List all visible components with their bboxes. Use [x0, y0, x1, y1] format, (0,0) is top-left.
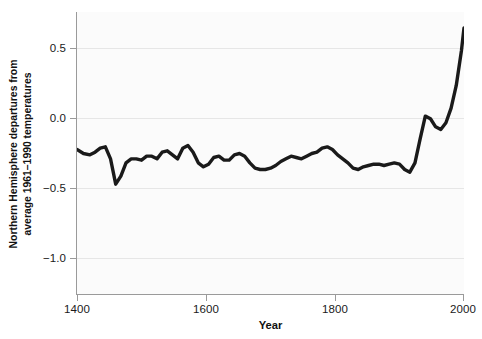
y-axis-title: Northern Hemisphere departures from aver… — [0, 12, 40, 295]
y-axis-line — [76, 12, 77, 295]
x-axis-line — [77, 294, 464, 295]
y-axis-title-line1: Northern Hemisphere departures from — [7, 59, 21, 248]
x-tick-1600 — [206, 295, 207, 301]
x-tick-label-1600: 1600 — [176, 303, 236, 315]
x-tick-2000 — [463, 295, 464, 301]
x-axis-title: Year — [77, 319, 464, 331]
x-tick-label-1800: 1800 — [305, 303, 365, 315]
y-tick-0.5 — [70, 48, 76, 49]
x-tick-1800 — [335, 295, 336, 301]
x-tick-label-1400: 1400 — [47, 303, 107, 315]
temperature-series-line — [77, 12, 464, 295]
x-tick-1400 — [77, 295, 78, 301]
y-axis-title-line2: average 1961–1990 temperatures — [20, 59, 34, 248]
x-tick-label-2000: 2000 — [433, 303, 482, 315]
plot-area — [77, 12, 464, 295]
y-tick--0.5 — [70, 188, 76, 189]
y-tick-0.0 — [70, 118, 76, 119]
y-tick--1.0 — [70, 258, 76, 259]
temperature-anomaly-chart: 0.5 0.0 −0.5 −1.0 1400 1600 1800 2000 No… — [0, 0, 482, 339]
